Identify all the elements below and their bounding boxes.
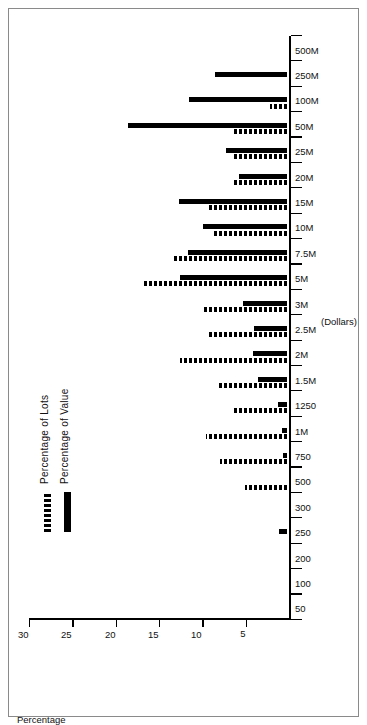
category-tick-label: 2M (295, 349, 308, 360)
category-separator (291, 237, 302, 238)
value-tick-label: 25 (61, 628, 72, 639)
category-tick-label: 1250 (295, 400, 316, 411)
category-axis-title: (Dollars) (321, 316, 357, 327)
category-tick-label: 200 (295, 552, 311, 563)
value-tick-mark (159, 620, 160, 627)
category-separator (291, 415, 302, 416)
bar-value (179, 275, 286, 280)
category-separator (291, 314, 302, 315)
bar-lots (269, 103, 286, 108)
legend-swatch-lots (44, 492, 51, 532)
bar-lots (208, 205, 287, 210)
bar-value (188, 249, 287, 254)
category-separator (291, 593, 302, 594)
value-tick-label: 10 (191, 628, 202, 639)
bar-lots (231, 154, 286, 159)
legend-swatch-value (64, 492, 71, 532)
category-separator (291, 85, 302, 86)
category-separator (291, 34, 302, 35)
value-tick-mark (245, 620, 246, 627)
value-tick-mark (115, 620, 116, 627)
category-separator (291, 491, 302, 492)
bar-value (202, 224, 286, 229)
category-tick-label: 50 (295, 603, 306, 614)
bar-lots (233, 129, 287, 134)
category-separator (291, 136, 302, 137)
bar-lots (206, 433, 287, 438)
category-separator (291, 288, 302, 289)
category-separator (291, 618, 302, 619)
value-tick-mark (72, 620, 73, 627)
category-tick-label: 2.5M (295, 324, 316, 335)
bar-value (254, 326, 287, 331)
bar-value (189, 97, 287, 102)
category-separator (291, 161, 302, 162)
bar-value (279, 529, 287, 534)
category-tick-label: 50M (295, 120, 313, 131)
category-separator (291, 187, 302, 188)
category-tick-label: 1.5M (295, 374, 316, 385)
category-tick-label: 1M (295, 425, 308, 436)
category-separator (291, 517, 302, 518)
bar-lots (220, 459, 287, 464)
bar-lots (217, 382, 286, 387)
category-tick-label: 250M (295, 70, 319, 81)
value-tick-label: 5 (239, 628, 244, 639)
category-tick-label: 300 (295, 501, 311, 512)
bar-lots (232, 408, 287, 413)
bar-value (281, 427, 286, 432)
bar-value (278, 402, 287, 407)
value-tick-label: 15 (147, 628, 158, 639)
category-separator (291, 212, 302, 213)
category-tick-label: 15M (295, 197, 313, 208)
value-tick-mark (29, 620, 30, 627)
category-tick-label: 750 (295, 450, 311, 461)
category-separator (291, 263, 302, 264)
category-separator (291, 339, 302, 340)
category-separator (291, 111, 302, 112)
plot-area (29, 38, 287, 620)
bar-lots (212, 230, 287, 235)
value-tick-label: 20 (104, 628, 115, 639)
bar-value (239, 173, 287, 178)
category-separator (291, 568, 302, 569)
bar-value (178, 199, 286, 204)
category-tick-label: 5M (295, 273, 308, 284)
category-tick-label: 25M (295, 146, 313, 157)
category-tick-label: 100 (295, 577, 311, 588)
category-tick-label: 3M (295, 298, 308, 309)
bar-value (215, 72, 287, 77)
bar-value (282, 452, 286, 457)
bar-lots (244, 484, 286, 489)
category-tick-label: 250 (295, 527, 311, 538)
bar-value (253, 351, 287, 356)
category-tick-label: 20M (295, 171, 313, 182)
legend-label: Percentage of Lots (39, 394, 50, 483)
bar-lots (203, 306, 286, 311)
bar-value (242, 300, 286, 305)
category-tick-label: 10M (295, 222, 313, 233)
chart-legend: Percentage of LotsPercentage of Value (41, 362, 97, 532)
bar-lots (179, 357, 286, 362)
value-axis-title: Percentage (17, 714, 66, 725)
value-tick-mark (202, 620, 203, 627)
category-separator (291, 60, 302, 61)
category-tick-label: 100M (295, 95, 319, 106)
bar-value (258, 376, 287, 381)
value-tick-label: 30 (17, 628, 28, 639)
legend-label: Percentage of Value (59, 388, 70, 484)
category-separator (291, 390, 302, 391)
bar-lots (174, 256, 287, 261)
bar-lots (144, 281, 287, 286)
category-separator (291, 466, 302, 467)
category-tick-label: 7.5M (295, 247, 316, 258)
category-separator (291, 542, 302, 543)
chart-page: Percentage 51015202530 50100200250300500… (0, 0, 367, 725)
bar-lots (232, 179, 287, 184)
bar-value (226, 148, 287, 153)
bar-value (127, 122, 286, 127)
category-axis-line (289, 36, 291, 620)
rotated-chart-container: Percentage 51015202530 50100200250300500… (19, 18, 349, 708)
bar-lots (209, 332, 287, 337)
category-separator (291, 441, 302, 442)
